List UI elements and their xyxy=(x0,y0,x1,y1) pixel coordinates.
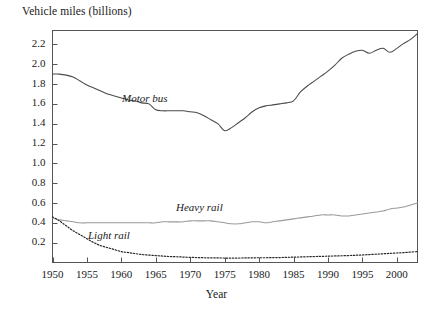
series-line-motor-bus xyxy=(53,33,418,130)
y-tick-label: 0.2 xyxy=(20,235,46,247)
series-label-light-rail: Light rail xyxy=(88,229,130,241)
y-tick-label: 0.6 xyxy=(20,196,46,208)
x-tick-label: 2000 xyxy=(377,268,417,280)
y-tick-label: 1.6 xyxy=(20,96,46,108)
chart-figure: Vehicle miles (billions) Year Motor bus … xyxy=(0,0,433,316)
y-tick-label: 1.0 xyxy=(20,156,46,168)
y-tick-label: 0.4 xyxy=(20,215,46,227)
y-tick-label: 2.2 xyxy=(20,37,46,49)
plot-frame xyxy=(53,31,418,263)
series-line-heavy-rail xyxy=(53,203,418,224)
x-axis-title: Year xyxy=(0,288,433,300)
y-tick-label: 2.0 xyxy=(20,57,46,69)
y-tick-label: 1.8 xyxy=(20,77,46,89)
y-axis-title: Vehicle miles (billions) xyxy=(22,5,132,17)
y-tick-label: 1.4 xyxy=(20,116,46,128)
series-label-motor-bus: Motor bus xyxy=(122,92,168,104)
y-tick-label: 1.2 xyxy=(20,136,46,148)
series-label-heavy-rail: Heavy rail xyxy=(176,201,223,213)
y-tick-label: 0.8 xyxy=(20,176,46,188)
